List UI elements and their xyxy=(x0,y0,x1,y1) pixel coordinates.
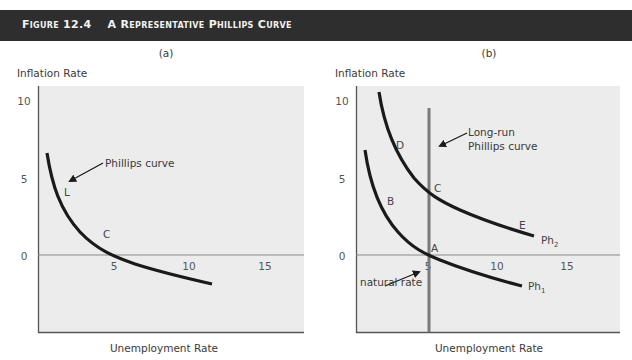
phillips-curve-charts: (a) Inflation Rate 10 5 0 5 10 15 Philli… xyxy=(0,0,632,360)
panel-b-y-axis-label: Inflation Rate xyxy=(335,67,405,79)
panel-b-plot-area xyxy=(357,86,620,332)
panel-b-x-axis-label: Unemployment Rate xyxy=(435,342,543,354)
panel-a-phillips-curve-label: Phillips curve xyxy=(105,157,175,169)
panel-b-ph1-subscript: 1 xyxy=(541,287,545,295)
panel-b-long-run-label-line1: Long-run xyxy=(468,126,515,138)
panel-b-ytick-0: 0 xyxy=(339,250,346,262)
panel-a-xtick-10: 10 xyxy=(182,260,195,272)
panel-b-point-C: C xyxy=(434,182,441,194)
panel-b-ytick-10: 10 xyxy=(335,95,348,107)
panel-b-ytick-5: 5 xyxy=(339,173,346,185)
panel-b-point-D: D xyxy=(396,139,404,151)
panel-b-long-run-label-line2: Phillips curve xyxy=(468,140,538,152)
panel-a-ytick-0: 0 xyxy=(21,250,28,262)
panel-b-ph2-base: Ph xyxy=(541,234,554,246)
panel-a-xtick-5: 5 xyxy=(111,260,118,272)
panel-b-point-A: A xyxy=(431,242,439,254)
panel-b: (b) Inflation Rate 10 5 0 5 10 15 Long-r… xyxy=(335,47,620,354)
panel-a-plot-area xyxy=(39,86,304,332)
panel-b-natural-rate-label: natural rate xyxy=(360,276,422,288)
panel-b-xtick-10: 10 xyxy=(490,260,503,272)
panel-b-point-E: E xyxy=(519,219,526,231)
panel-b-ph2-subscript: 2 xyxy=(554,241,558,249)
panel-a-ytick-10: 10 xyxy=(17,95,30,107)
panel-a-point-L: L xyxy=(64,186,70,198)
panel-b-ph1-base: Ph xyxy=(528,280,541,292)
panel-b-point-B: B xyxy=(387,195,394,207)
panel-a-ytick-5: 5 xyxy=(21,173,28,185)
panel-a-y-axis-label: Inflation Rate xyxy=(17,67,87,79)
panel-a: (a) Inflation Rate 10 5 0 5 10 15 Philli… xyxy=(17,47,304,354)
panel-a-x-axis-label: Unemployment Rate xyxy=(110,342,218,354)
panel-a-label: (a) xyxy=(159,47,174,59)
panel-b-label: (b) xyxy=(482,47,497,59)
panel-b-xtick-15: 15 xyxy=(560,260,573,272)
panel-a-point-C: C xyxy=(103,228,110,240)
panel-a-xtick-15: 15 xyxy=(258,260,271,272)
